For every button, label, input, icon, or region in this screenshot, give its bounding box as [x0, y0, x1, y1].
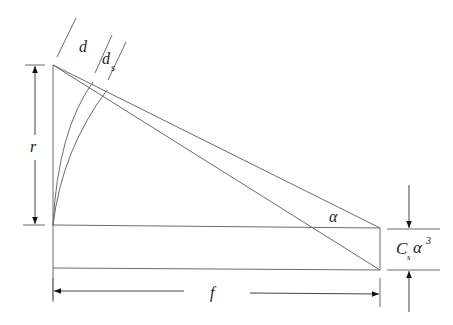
upper-diagonal-line: [53, 65, 380, 228]
horizontal-axis-line: [53, 225, 380, 228]
label-f: f: [210, 284, 217, 302]
lower-diagonal-line: [53, 65, 380, 270]
label-alpha: α: [329, 208, 338, 225]
d-dimension: [57, 18, 126, 80]
label-d: d: [79, 38, 88, 55]
label-ds-subscript: s: [111, 62, 115, 73]
label-cs-subscript: s: [407, 252, 411, 262]
d-extension-left: [57, 18, 76, 57]
label-cs-alpha: α: [413, 238, 423, 257]
label-cs-exponent: 3: [425, 235, 431, 246]
bottom-horizontal-line: [53, 268, 380, 270]
f-dimension: [53, 278, 380, 307]
label-r: r: [30, 138, 37, 155]
diagram-canvas: d d s r α f C s α 3: [0, 0, 453, 325]
ds-extension-right: [108, 42, 126, 80]
f-arrow-right: [250, 293, 379, 294]
curve-d: [53, 82, 93, 225]
geometry: [53, 65, 380, 300]
label-ds: d: [102, 50, 111, 67]
